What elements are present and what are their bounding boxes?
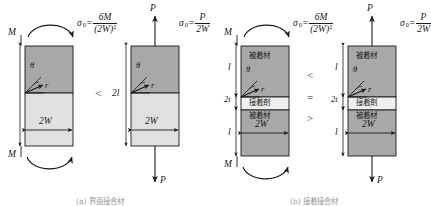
- specimen-4-layer-1-label: 接着剤: [356, 99, 376, 107]
- formula-numerator: 6M: [309, 13, 333, 24]
- formula-denominator: (2W): [310, 24, 329, 34]
- formula-denominator: 2W: [195, 24, 210, 34]
- formula-numerator: P: [195, 13, 210, 24]
- formula-denominator: (2W): [94, 24, 113, 34]
- specimen-3-layer-0-label: 被着材: [249, 52, 269, 60]
- specimen-3-r-label: r: [261, 85, 264, 94]
- sigma-symbol: σ: [400, 19, 405, 29]
- specimen-3-layer-1-label: 接着剤: [249, 99, 269, 107]
- specimen-3-theta-label: θ: [246, 65, 250, 74]
- specimen-3-stress-formula: σ0 = 6M (2W)2: [293, 13, 333, 34]
- specimen-4-dim-mid-label: 2t: [331, 95, 338, 104]
- panel-b-caption: (b) 接着接合材: [290, 195, 338, 206]
- specimen-4-stress-formula: σ0 = P 2W: [400, 13, 431, 34]
- specimen-3-dim-lower-label: l: [228, 128, 231, 138]
- formula-denominator: 2W: [416, 24, 431, 34]
- specimen-1-theta-label: θ: [30, 61, 34, 70]
- specimen-3-width-label: 2W: [255, 120, 268, 130]
- specimen-1-r-label: r: [45, 81, 48, 90]
- specimen-1-load-label-bottom: M: [8, 150, 16, 160]
- specimen-4-width-label: 2W: [362, 120, 375, 130]
- equals-sign: =: [189, 19, 194, 29]
- specimen-2-theta-label: θ: [136, 61, 140, 70]
- specimen-2-r-label: r: [151, 81, 154, 90]
- specimen-3-dim-mid-label: 2t: [224, 95, 231, 104]
- sigma-symbol: σ: [77, 19, 82, 29]
- specimen-3-load-label-top: M: [224, 28, 232, 38]
- panel-a-comparison-lt: <: [95, 88, 101, 99]
- formula-numerator: P: [416, 13, 431, 24]
- specimen-1-load-label-top: M: [8, 28, 16, 38]
- panel-b-comparison-gt: >: [307, 113, 313, 124]
- specimen-3-moment-top: [244, 25, 289, 37]
- sigma-symbol: σ: [179, 19, 184, 29]
- specimen-4-load-label-top: P: [367, 4, 373, 14]
- specimen-4-load-label-bottom: P: [377, 176, 383, 186]
- sigma-symbol: σ: [293, 19, 298, 29]
- sigma-subscript: 0: [406, 22, 409, 28]
- specimen-4-dim-upper-label: l: [335, 63, 338, 73]
- formula-exponent: 2: [113, 24, 116, 30]
- equals-sign: =: [303, 19, 308, 29]
- specimen-3-load-label-bottom: M: [224, 160, 232, 170]
- specimen-2-height-label: 2l: [112, 89, 119, 99]
- specimen-2-width-label: 2W: [145, 117, 158, 127]
- specimen-2-load-label-bottom: P: [160, 176, 166, 186]
- formula-exponent: 2: [329, 24, 332, 30]
- specimen-3-dim-upper-label: l: [228, 63, 231, 73]
- specimen-4-theta-label: θ: [353, 65, 357, 74]
- specimen-4-layer-0-label: 被着材: [356, 52, 376, 60]
- panel-b-comparison-eq: =: [307, 92, 313, 103]
- equals-sign: =: [410, 19, 415, 29]
- specimen-1-stress-formula: σ0 = 6M (2W)2: [77, 13, 117, 34]
- specimen-1-width-label: 2W: [39, 117, 52, 127]
- specimen-3-moment-bottom: [243, 167, 288, 179]
- equals-sign: =: [87, 19, 92, 29]
- sigma-subscript: 0: [83, 22, 86, 28]
- specimen-2-stress-formula: σ0 = P 2W: [179, 13, 210, 34]
- formula-numerator: 6M: [93, 13, 117, 24]
- sigma-subscript: 0: [185, 22, 188, 28]
- sigma-subscript: 0: [299, 22, 302, 28]
- panel-b-comparison-lt: <: [307, 70, 313, 81]
- specimen-4-r-label: r: [368, 85, 371, 94]
- panel-a-caption: (a) 界面接合材: [76, 195, 124, 206]
- specimen-1-moment-bottom: [27, 157, 72, 169]
- specimen-1-moment-top: [28, 25, 73, 37]
- specimen-4-dim-lower-label: l: [335, 128, 338, 138]
- specimen-2-load-label-top: P: [150, 4, 156, 14]
